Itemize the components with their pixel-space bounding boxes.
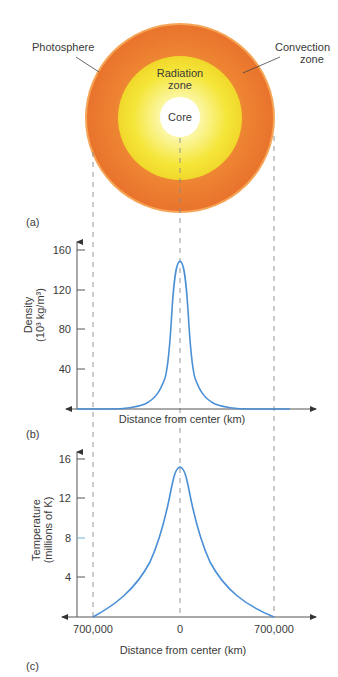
radiation-zone-label-line2: zone — [168, 79, 192, 91]
density-tick-label-120: 120 — [53, 284, 71, 296]
temperature-chart: 16 12 8 4 Temperature (millions of K) 70… — [30, 452, 316, 656]
panel-a-label: (a) — [26, 216, 39, 228]
panel-c-label: (c) — [26, 660, 39, 672]
temperature-tick-label-12: 12 — [59, 492, 71, 504]
photosphere-label: Photosphere — [32, 41, 94, 53]
temperature-xtick-left: 700,000 — [73, 623, 113, 635]
temperature-tick-label-8: 8 — [65, 532, 71, 544]
density-ylabel-line1: Density — [22, 296, 34, 333]
density-tick-label-40: 40 — [59, 363, 71, 375]
density-chart: 160 120 80 40 Density (10³ kg/m³) Distan… — [22, 242, 316, 425]
temperature-xtick-center: 0 — [177, 623, 183, 635]
radiation-zone-label-line1: Radiation — [157, 67, 203, 79]
density-xlabel: Distance from center (km) — [119, 413, 246, 425]
density-ylabel-line2: (10³ kg/m³) — [34, 288, 46, 342]
panel-b-label: (b) — [26, 428, 39, 440]
density-tick-label-80: 80 — [59, 323, 71, 335]
temperature-ylabel-line1: Temperature — [30, 499, 42, 561]
density-curve — [77, 261, 290, 409]
convection-zone-label-line2: zone — [300, 53, 324, 65]
convection-zone-label-line1: Convection — [275, 41, 330, 53]
photosphere-leader-line — [76, 57, 99, 72]
temperature-tick-label-4: 4 — [65, 571, 71, 583]
temperature-tick-label-16: 16 — [59, 453, 71, 465]
density-tick-label-160: 160 — [53, 244, 71, 256]
core-label: Core — [168, 111, 192, 123]
temperature-xlabel: Distance from center (km) — [120, 644, 247, 656]
sun-structure-figure: Photosphere Convection zone Radiation zo… — [0, 0, 338, 677]
temperature-ylabel-line2: (millions of K) — [42, 497, 54, 564]
temperature-curve — [93, 467, 274, 617]
temperature-xtick-right: 700,000 — [254, 623, 294, 635]
